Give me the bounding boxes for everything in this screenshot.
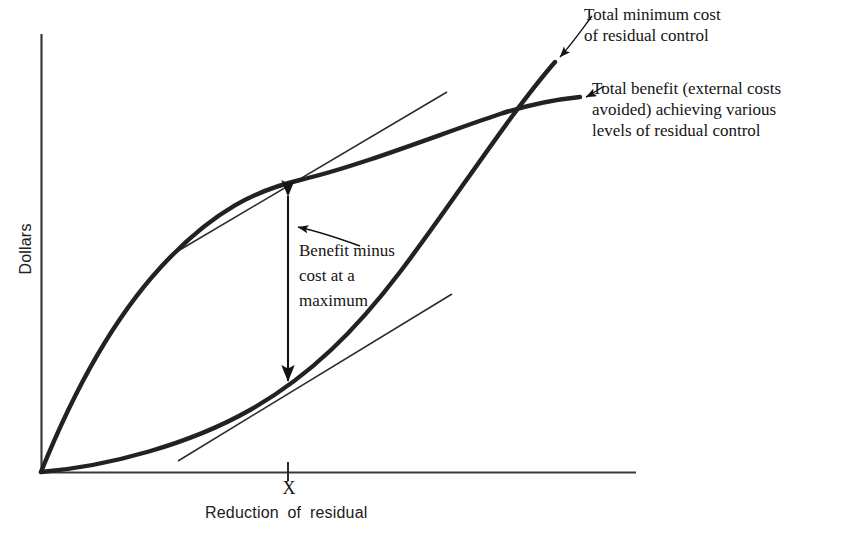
label-total-benefit: Total benefit (external costs avoided) a… bbox=[592, 78, 781, 141]
label-total-minimum-cost: Total minimum cost of residual control bbox=[584, 4, 721, 46]
tangent-line-cost bbox=[178, 294, 452, 461]
figure-total-benefit-vs-total-cost: Total minimum cost of residual control T… bbox=[0, 0, 848, 540]
x-axis-title: Reduction of residual bbox=[205, 504, 368, 522]
x-axis-point-label: X bbox=[277, 478, 301, 499]
label-benefit-minus-cost: Benefit minus cost at a maximum bbox=[299, 238, 395, 313]
y-axis-title: Dollars bbox=[17, 204, 35, 294]
tangent-line-benefit bbox=[178, 92, 447, 251]
